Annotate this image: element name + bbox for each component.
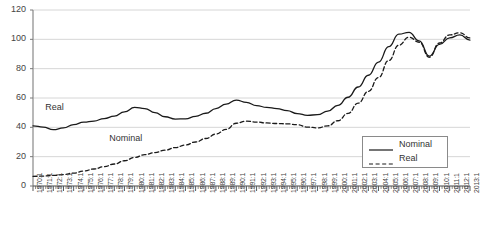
x-axis-tick-label: 2008:1 xyxy=(422,173,429,193)
x-axis-tick-label: 1984:1 xyxy=(178,173,185,193)
x-axis-tick-label: 1978:1 xyxy=(117,173,124,193)
x-axis-tick-label: 1988:1 xyxy=(219,173,226,193)
x-axis-tick-label: 1989:1 xyxy=(229,173,236,193)
x-axis-tick-label: 2001:1 xyxy=(351,173,358,193)
x-axis-tick-label: 1973:1 xyxy=(66,173,73,193)
x-axis-tick-label: 2012:1 xyxy=(463,173,470,193)
x-axis-tick-label: 1986:1 xyxy=(199,173,206,193)
series-line-nominal xyxy=(33,32,470,129)
y-axis-tick-label: 80 xyxy=(2,64,26,73)
x-axis-tick-label: 1994:1 xyxy=(280,173,287,193)
x-axis-tick-label: 1997:1 xyxy=(310,173,317,193)
x-axis-tick-label: 2013:1 xyxy=(473,173,480,193)
legend-entry-real[interactable]: Real xyxy=(363,151,447,165)
x-axis-tick-label: 1993:1 xyxy=(270,173,277,193)
x-axis-tick-label: 2002:1 xyxy=(361,173,368,193)
x-axis-tick-label: 2011:1 xyxy=(453,173,460,193)
x-axis-tick-label: 1970:1 xyxy=(36,173,43,193)
y-axis-tick-label: 100 xyxy=(2,34,26,43)
legend-label: Real xyxy=(399,154,418,163)
x-axis-tick-label: 1977:1 xyxy=(107,173,114,193)
y-axis-tick-label: 60 xyxy=(2,93,26,102)
x-axis-tick-label: 2004:1 xyxy=(382,173,389,193)
x-axis-tick-label: 2007:1 xyxy=(412,173,419,193)
x-axis-tick-label: 2003:1 xyxy=(371,173,378,193)
annotation-nominal: Nominal xyxy=(109,133,142,143)
x-axis-tick-label: 1985:1 xyxy=(188,173,195,193)
legend-swatch-dashed-icon xyxy=(368,154,394,162)
x-axis-tick-label: 1974:1 xyxy=(77,173,84,193)
x-axis-tick-label: 1976:1 xyxy=(97,173,104,193)
x-axis-tick-label: 2009:1 xyxy=(432,173,439,193)
chart-legend: NominalReal xyxy=(362,136,448,168)
x-axis-tick-label: 1982:1 xyxy=(158,173,165,193)
x-axis-tick-label: 1991:1 xyxy=(249,173,256,193)
x-axis-tick-label: 1972:1 xyxy=(56,173,63,193)
x-axis-tick-label: 1983:1 xyxy=(168,173,175,193)
x-axis-tick-label: 1995:1 xyxy=(290,173,297,193)
y-axis-tick-label: 120 xyxy=(2,5,26,14)
y-axis-tick-label: 0 xyxy=(2,181,26,190)
x-axis-tick-label: 1979:1 xyxy=(127,173,134,193)
legend-swatch-solid-icon xyxy=(368,140,394,148)
x-axis-tick-label: 1998:1 xyxy=(321,173,328,193)
x-axis-tick-label: 1971:1 xyxy=(46,173,53,193)
x-axis-tick-label: 1999:1 xyxy=(331,173,338,193)
legend-label: Nominal xyxy=(399,140,432,149)
x-axis-tick-label: 1981:1 xyxy=(148,173,155,193)
x-axis-tick-label: 2005:1 xyxy=(392,173,399,193)
x-axis-tick-label: 1996:1 xyxy=(300,173,307,193)
x-axis-tick-label: 1990:1 xyxy=(239,173,246,193)
x-axis-tick-label: 1975:1 xyxy=(87,173,94,193)
x-axis-tick-label: 2006:1 xyxy=(402,173,409,193)
x-axis-tick-label: 2010:1 xyxy=(443,173,450,193)
x-axis-tick-label: 1980:1 xyxy=(138,173,145,193)
annotation-real: Real xyxy=(45,102,64,112)
x-axis-tick-label: 1987:1 xyxy=(209,173,216,193)
legend-entry-nominal[interactable]: Nominal xyxy=(363,137,447,151)
x-axis-tick-label: 2000:1 xyxy=(341,173,348,193)
x-axis-tick-label: 1992:1 xyxy=(260,173,267,193)
y-axis-tick-label: 20 xyxy=(2,152,26,161)
y-axis-tick-label: 40 xyxy=(2,122,26,131)
